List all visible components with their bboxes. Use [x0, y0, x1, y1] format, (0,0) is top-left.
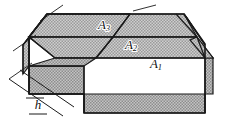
isometric-roof-diagram: A3 A2 A1 h [0, 0, 230, 121]
leader-top-right-1 [133, 5, 156, 11]
label-area-2-sub: 2 [133, 43, 138, 53]
face-front-slab-top [29, 58, 96, 66]
label-area-1-sub: 1 [158, 62, 162, 72]
face-front-main-wall [84, 94, 205, 113]
label-height: h [35, 97, 42, 112]
face-right-end [205, 58, 213, 94]
label-area-3-sub: 3 [105, 23, 110, 33]
face-front-left-wall [29, 66, 84, 94]
figure-root: A3 A2 A1 h [0, 0, 230, 121]
label-area-1-base: A [149, 56, 158, 71]
label-area-3-base: A [97, 17, 106, 32]
label-area-2-base: A [124, 37, 133, 52]
solid-body [23, 14, 213, 113]
